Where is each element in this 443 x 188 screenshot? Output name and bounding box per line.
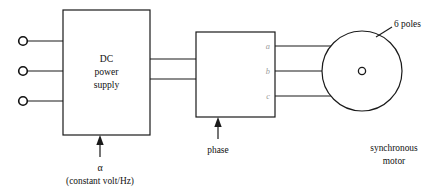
- phase-output-label-b: b: [266, 67, 270, 76]
- six-poles-label: 6 poles: [394, 19, 421, 29]
- phase-arrow-head-icon: [214, 117, 221, 127]
- input-terminal-1-circle-icon: [19, 37, 28, 46]
- alpha-symbol-label: α: [97, 162, 103, 173]
- dc-power-supply-label-line2: power: [95, 66, 120, 77]
- phase-output-label-a: a: [266, 42, 270, 51]
- diagram-canvas: DC power supply α (constant volt/Hz) a b…: [0, 0, 443, 188]
- input-terminal-2-circle-icon: [19, 67, 28, 76]
- dc-to-phase-bus: [150, 59, 196, 79]
- phase-to-motor-lines: [275, 46, 331, 96]
- alpha-control-arrow: [96, 135, 103, 157]
- phase-output-label-c: c: [266, 92, 270, 101]
- alpha-arrow-head-icon: [96, 135, 103, 145]
- dc-power-supply-label-line1: DC: [100, 53, 113, 64]
- constant-volt-per-hz-label: (constant volt/Hz): [66, 176, 134, 187]
- motor-shaft-icon: [358, 67, 365, 74]
- motor-name-line1: synchronous: [370, 143, 418, 153]
- input-terminals-group: [19, 37, 63, 106]
- input-terminal-3-circle-icon: [19, 97, 28, 106]
- dc-power-supply-label-line3: supply: [94, 79, 120, 90]
- phase-box: [196, 32, 275, 117]
- block-diagram-svg: DC power supply α (constant volt/Hz) a b…: [0, 0, 443, 188]
- phase-control-arrow: [214, 117, 221, 139]
- phase-label: phase: [207, 145, 228, 155]
- six-poles-leader-line: [376, 27, 392, 37]
- motor-name-line2: motor: [383, 156, 406, 166]
